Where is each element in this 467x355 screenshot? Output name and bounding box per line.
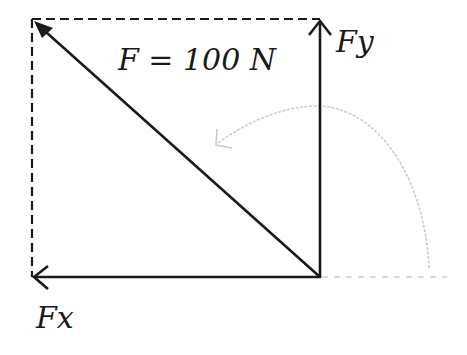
fx-vector: [34, 266, 321, 289]
resultant-label: F = 100 N: [117, 42, 278, 77]
force-diagram: F = 100 N Fy Fx: [0, 0, 467, 355]
rotation-arc-icon: [216, 106, 429, 268]
fy-vector: [309, 21, 331, 278]
fy-label: Fy: [335, 24, 375, 59]
fx-label: Fx: [35, 300, 74, 335]
